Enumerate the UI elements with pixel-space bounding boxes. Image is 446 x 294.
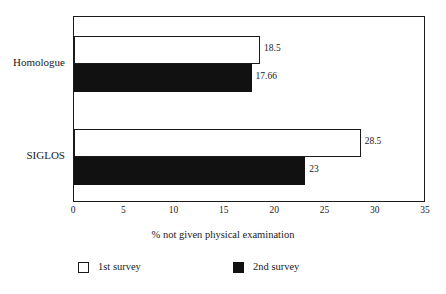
bar-value-label: 28.5 [365, 137, 382, 147]
legend-swatch-filled-square-icon [233, 262, 244, 273]
x-axis-tick-label: 10 [169, 206, 179, 216]
bar-chart: 18.517.66Homologue28.523SIGLOS0510152025… [0, 0, 446, 294]
legend-item-1st-survey[interactable]: 1st survey [78, 262, 141, 273]
bar-value-label: 17.66 [256, 72, 277, 82]
x-axis-tick-label: 20 [269, 206, 279, 216]
legend-swatch-hollow-square-icon [78, 262, 89, 273]
x-axis-tick-label: 30 [370, 206, 380, 216]
x-axis-title: % not given physical examination [0, 230, 446, 241]
bar-homologue-series-1 [74, 36, 260, 64]
category-label-siglos: SIGLOS [26, 150, 65, 161]
x-axis-tick-label: 5 [121, 206, 126, 216]
x-axis-tick-label: 15 [219, 206, 229, 216]
bar-siglos-series-2 [74, 157, 305, 185]
chart-legend: 1st survey 2nd survey [0, 262, 446, 282]
legend-item-2nd-survey[interactable]: 2nd survey [233, 262, 299, 273]
legend-label: 2nd survey [253, 262, 299, 273]
x-axis-tick-label: 0 [71, 206, 76, 216]
category-label-homologue: Homologue [13, 57, 65, 68]
bar-value-label: 18.5 [264, 44, 281, 54]
plot-area [73, 16, 425, 202]
x-axis-tick-label: 35 [420, 206, 430, 216]
bar-homologue-series-2 [74, 64, 252, 92]
x-axis-tick-label: 25 [320, 206, 330, 216]
bar-value-label: 23 [309, 165, 319, 175]
bar-siglos-series-1 [74, 129, 361, 157]
legend-label: 1st survey [98, 262, 141, 273]
